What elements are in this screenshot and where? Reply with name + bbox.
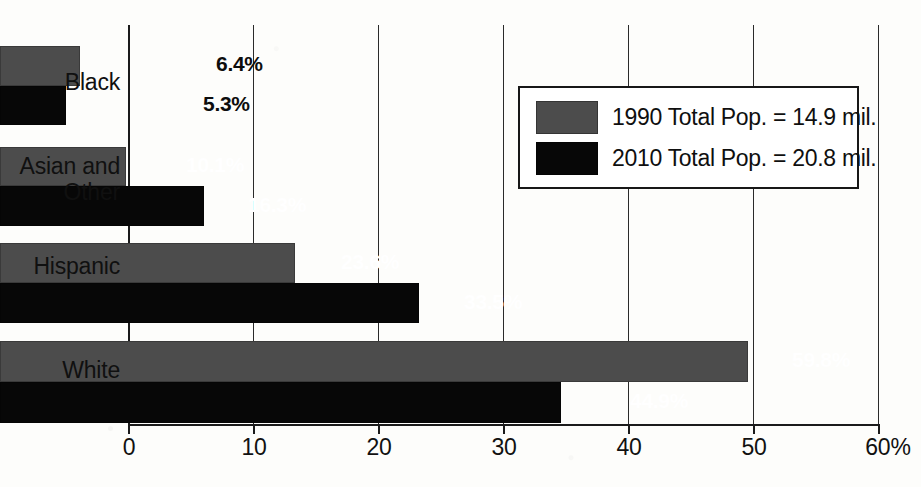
- legend-label-2010: 2010 Total Pop. = 20.8 mil.: [612, 145, 876, 172]
- chart-legend: 1990 Total Pop. = 14.9 mil. 2010 Total P…: [518, 86, 859, 189]
- x-tick-label-30: 30: [491, 434, 516, 461]
- bar-value-asian-2010: 16.3%: [248, 193, 306, 217]
- x-tick-label-40: 40: [616, 434, 641, 461]
- bar-chart-figure: 6.4% 5.3% 10.1% 16.3% 23.6% 33.5% 59.8% …: [0, 0, 921, 487]
- tickmark-10: [253, 425, 255, 434]
- bar-value-black-1990: 6.4%: [216, 52, 263, 76]
- bar-value-white-1990: 59.8%: [792, 348, 850, 372]
- x-tick-label-20: 20: [366, 434, 391, 461]
- bar-value-white-2010: 44.9%: [630, 389, 688, 413]
- gridline-50: [753, 25, 754, 425]
- bar-value-hispanic-2010: 33.5%: [464, 290, 522, 314]
- legend-swatch-1990: [536, 101, 598, 134]
- category-label-asian-line1: Asian and: [2, 155, 120, 178]
- bar-value-black-2010: 5.3%: [203, 92, 250, 116]
- category-label-hispanic: Hispanic: [2, 255, 120, 278]
- legend-swatch-2010: [536, 142, 598, 175]
- bar-value-hispanic-1990: 23.6%: [341, 250, 399, 274]
- gridline-60: [878, 25, 879, 425]
- category-axis-labels: Black Asian and Other Hispanic White: [0, 0, 120, 487]
- category-label-white: White: [2, 359, 120, 382]
- x-tick-label-60: 60%: [865, 434, 910, 461]
- tickmark-60: [878, 425, 880, 434]
- tickmark-20: [378, 425, 380, 434]
- x-tick-label-0: 0: [123, 434, 136, 461]
- x-tick-label-10: 10: [241, 434, 266, 461]
- tickmark-0: [128, 425, 130, 434]
- legend-entry-1990: 1990 Total Pop. = 14.9 mil.: [536, 101, 876, 134]
- category-label-black: Black: [2, 71, 120, 94]
- tickmark-30: [503, 425, 505, 434]
- tickmark-50: [753, 425, 755, 434]
- category-label-asian-line2: Other: [2, 181, 120, 204]
- tickmark-40: [628, 425, 630, 434]
- legend-entry-2010: 2010 Total Pop. = 20.8 mil.: [536, 142, 876, 175]
- bar-value-asian-1990: 10.1%: [186, 153, 244, 177]
- x-tick-label-50: 50: [741, 434, 766, 461]
- legend-label-1990: 1990 Total Pop. = 14.9 mil.: [612, 104, 876, 131]
